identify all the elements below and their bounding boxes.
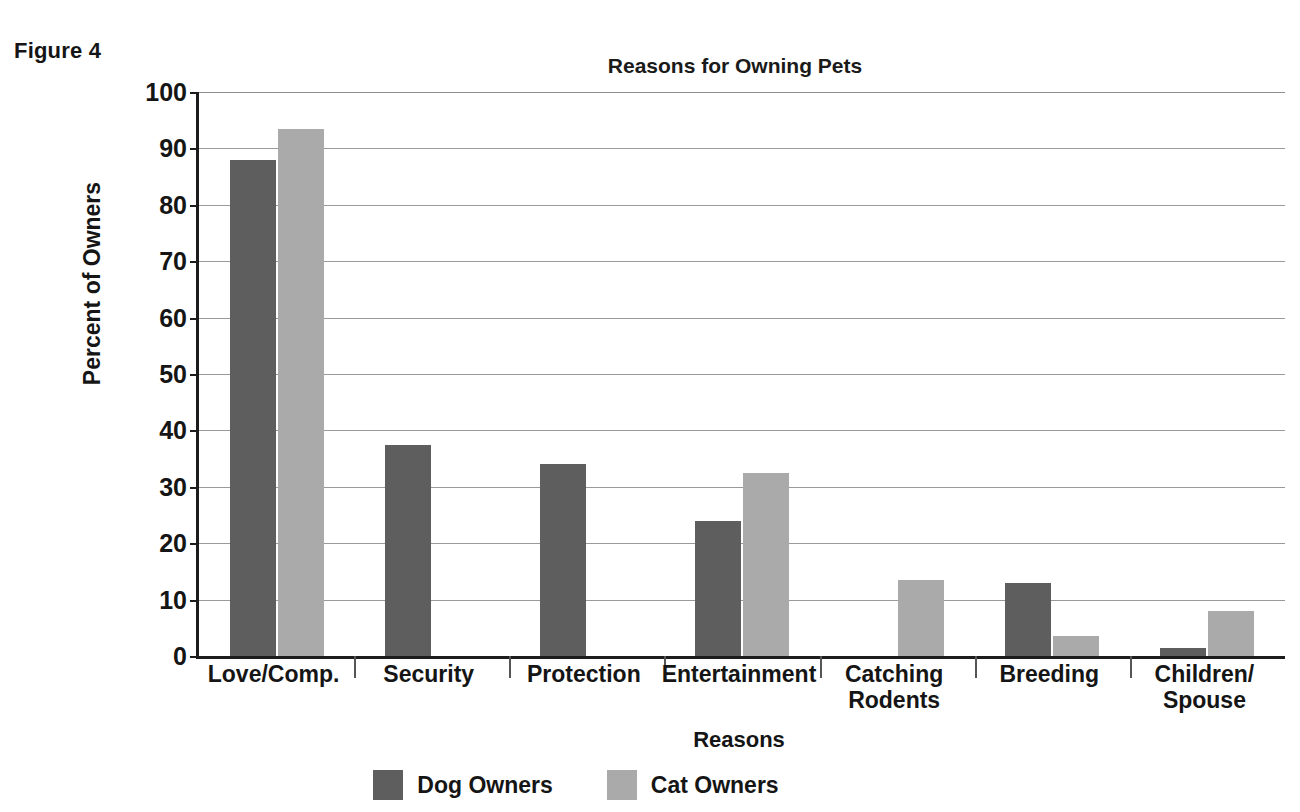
y-axis-tick <box>190 318 199 320</box>
legend-swatch-dog <box>373 770 403 800</box>
chart-legend: Dog OwnersCat Owners <box>196 770 956 800</box>
bar <box>540 464 586 656</box>
bar <box>385 445 431 657</box>
x-axis-category-label-line: Spouse <box>1117 688 1292 714</box>
figure-label: Figure 4 <box>14 38 101 64</box>
legend-item[interactable]: Cat Owners <box>607 770 779 800</box>
legend-swatch-cat <box>607 770 637 800</box>
y-axis-tick <box>190 543 199 545</box>
y-axis-tick-label: 100 <box>117 80 187 105</box>
x-axis-category-label: Breeding <box>962 662 1137 688</box>
y-axis-tick <box>190 656 199 658</box>
y-axis-tick-label: 20 <box>117 531 187 556</box>
x-axis-category-label-line: Love/Comp. <box>186 662 361 688</box>
chart-title: Reasons for Owning Pets <box>180 54 1290 78</box>
x-axis-category-label-line: Entertainment <box>651 662 826 688</box>
y-axis-tick <box>190 374 199 376</box>
y-axis-tick <box>190 205 199 207</box>
y-axis-tick <box>190 487 199 489</box>
x-axis-category-label-line: Catching <box>807 662 982 688</box>
bar <box>898 580 944 656</box>
y-axis-tick-label: 40 <box>117 418 187 443</box>
x-axis-category-label: Love/Comp. <box>186 662 361 688</box>
x-axis-category-label: Children/Spouse <box>1117 662 1292 714</box>
bar <box>743 473 789 656</box>
x-axis-category-label-line: Breeding <box>962 662 1137 688</box>
bar <box>1005 583 1051 656</box>
y-axis-tick <box>190 92 199 94</box>
y-axis-tick <box>190 430 199 432</box>
x-axis-category-label-line: Children/ <box>1117 662 1292 688</box>
y-axis-tick-label: 0 <box>117 644 187 669</box>
x-axis-category-label: CatchingRodents <box>807 662 982 714</box>
y-axis-tick-labels: 1009080706050403020100 <box>110 0 188 812</box>
x-axis-category-label: Security <box>341 662 516 688</box>
legend-label: Dog Owners <box>417 772 552 799</box>
y-axis-title: Percent of Owners <box>79 134 106 434</box>
y-axis-tick-label: 60 <box>117 305 187 330</box>
y-axis-tick-label: 90 <box>117 136 187 161</box>
figure-container: Figure 4 Reasons for Owning Pets Percent… <box>0 0 1300 812</box>
bars-layer <box>199 92 1285 656</box>
x-axis-category-label-line: Rodents <box>807 688 982 714</box>
y-axis-tick-label: 70 <box>117 249 187 274</box>
bar <box>695 521 741 656</box>
x-axis-category-label-line: Security <box>341 662 516 688</box>
bar <box>230 160 276 656</box>
y-axis-tick <box>190 148 199 150</box>
x-axis-title: Reasons <box>196 727 1282 753</box>
x-axis-category-label: Entertainment <box>651 662 826 688</box>
x-axis-category-label: Protection <box>496 662 671 688</box>
y-axis-tick-label: 80 <box>117 192 187 217</box>
y-axis-tick-label: 50 <box>117 362 187 387</box>
x-axis-category-label-line: Protection <box>496 662 671 688</box>
y-axis-tick-label: 30 <box>117 474 187 499</box>
bar <box>1208 611 1254 656</box>
y-axis-tick <box>190 600 199 602</box>
plot-area <box>196 92 1285 659</box>
legend-label: Cat Owners <box>651 772 779 799</box>
bar <box>278 129 324 656</box>
y-axis-tick-label: 10 <box>117 587 187 612</box>
bar <box>1160 648 1206 656</box>
bar <box>1053 636 1099 656</box>
legend-item[interactable]: Dog Owners <box>373 770 552 800</box>
y-axis-tick <box>190 261 199 263</box>
